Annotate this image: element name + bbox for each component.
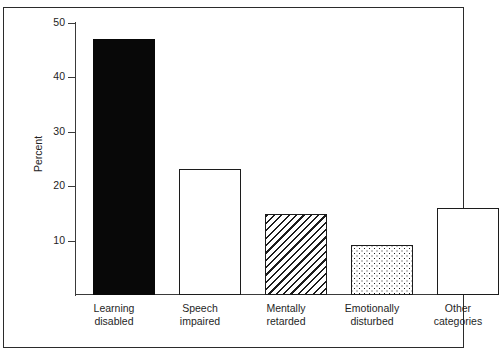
bar-mentally-retarded[interactable]: [265, 214, 327, 295]
x-axis-label-other-categories: Other categories: [407, 302, 503, 327]
x-label-line-2: categories: [407, 315, 503, 328]
y-axis-title: Percent: [32, 124, 44, 184]
x-label-line-1: Other: [407, 302, 503, 315]
y-axis-label-50: 50: [25, 17, 65, 27]
y-axis-tick-10: [68, 241, 75, 242]
bar-learning-disabled[interactable]: [93, 39, 155, 295]
y-axis-tick-20: [68, 186, 75, 187]
bar-speech-impaired[interactable]: [179, 169, 241, 295]
bar-emotionally-disturbed[interactable]: [351, 245, 413, 295]
y-axis-tick-40: [68, 77, 75, 78]
y-axis-tick-50: [68, 23, 75, 24]
y-axis-tick-30: [68, 132, 75, 133]
y-axis-label-40: 40: [25, 71, 65, 81]
y-axis-title-wrap: Percent: [30, 130, 44, 190]
bars-layer: [75, 22, 461, 295]
cropped-header-fragment: [0, 0, 468, 7]
y-axis-label-10: 10: [25, 235, 65, 245]
bar-other-categories[interactable]: [437, 208, 499, 295]
